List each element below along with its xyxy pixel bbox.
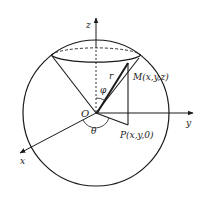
y-axis-label: y (185, 118, 192, 128)
x-axis (20, 113, 96, 153)
x-axis-label: x (20, 156, 25, 166)
origin-label: O (81, 108, 89, 119)
phi-angle-arc (96, 98, 104, 100)
radius-label: r (109, 71, 114, 81)
line-OP (96, 113, 128, 125)
spherical-coordinates-diagram: z y x O r φ θ M(x,y,z) P(x,y,0) (0, 0, 205, 199)
phi-label: φ (100, 85, 107, 95)
point-P-label: P(x,y,0) (119, 130, 154, 140)
theta-label: θ (91, 126, 97, 136)
z-axis-label: z (85, 20, 91, 30)
point-M-label: M(x,y,z) (132, 72, 169, 82)
cone-left-edge (52, 56, 96, 113)
